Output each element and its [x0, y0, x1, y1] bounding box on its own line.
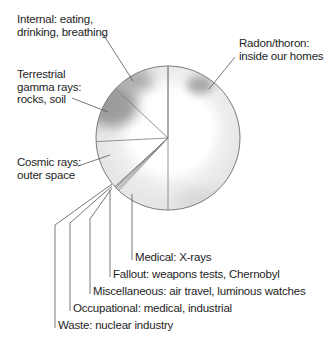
label-cosmic: Cosmic rays: outer space: [17, 156, 81, 181]
label-medical: Medical: X-rays: [135, 251, 211, 264]
label-occupational: Occupational: medical, industrial: [73, 302, 232, 315]
label-cosmic-line1: Cosmic rays:: [17, 156, 81, 169]
label-terrestrial: Terrestrial gamma rays: rocks, soil: [17, 68, 81, 106]
label-terrestrial-line3: rocks, soil: [17, 93, 81, 106]
label-terrestrial-line1: Terrestrial: [17, 68, 81, 81]
label-radon-line1: Radon/thoron:: [239, 37, 323, 50]
label-internal-line2: drinking, breathing: [17, 26, 108, 39]
label-terrestrial-line2: gamma rays:: [17, 81, 81, 94]
label-cosmic-line2: outer space: [17, 169, 81, 182]
label-radon: Radon/thoron: inside our homes: [239, 37, 323, 62]
label-internal: Internal: eating, drinking, breathing: [17, 13, 108, 38]
leader-radon: [209, 57, 235, 89]
label-radon-line2: inside our homes: [239, 50, 323, 63]
leader-internal: [103, 34, 133, 81]
label-waste: Waste: nuclear industry: [58, 319, 173, 332]
label-internal-line1: Internal: eating,: [17, 13, 108, 26]
leader-misc: [90, 188, 112, 294]
label-misc: Miscellaneous: air travel, luminous watc…: [93, 285, 306, 298]
label-fallout: Fallout: weapons tests, Chernobyl: [113, 268, 280, 281]
